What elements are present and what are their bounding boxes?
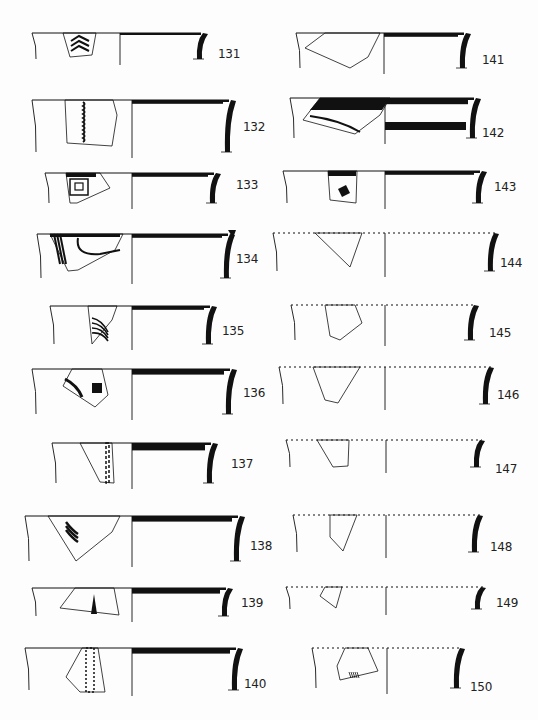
catalogue-number: 142 (482, 126, 504, 140)
catalogue-number: 145 (489, 326, 511, 340)
sherd-148 (293, 515, 483, 558)
fragment-outline (317, 440, 349, 467)
fragment-outline (325, 305, 362, 340)
catalogue-number: 144 (500, 256, 522, 270)
pottery-drawing-plate: 1311321331341351361371381391401411421431… (0, 0, 538, 720)
catalogue-number: 131 (218, 47, 240, 61)
sherd-135 (50, 306, 217, 350)
catalogue-number: 132 (243, 120, 265, 134)
fragment-outline (337, 648, 378, 680)
sherd-146 (279, 367, 494, 410)
sherd-142 (290, 98, 481, 144)
fragment-outline (320, 587, 342, 608)
catalogue-number: 134 (236, 252, 258, 266)
catalogue-number: 150 (470, 680, 492, 694)
fragment-outline (330, 515, 357, 551)
catalogue-number: 149 (496, 596, 518, 610)
catalogue-number: 140 (244, 677, 266, 691)
sherd-149 (286, 587, 486, 615)
fragment-outline (315, 233, 362, 267)
sherd-144 (273, 233, 499, 277)
catalogue-number: 133 (236, 178, 258, 192)
catalogue-number: 136 (243, 386, 265, 400)
fragment-outline (48, 516, 120, 561)
sherd-143 (283, 171, 487, 209)
sherd-147 (286, 440, 485, 473)
catalogue-number: 146 (497, 388, 519, 402)
catalogue-number: 138 (250, 539, 272, 553)
sherd-134 (37, 230, 236, 284)
catalogue-number: 135 (222, 324, 244, 338)
sherd-139 (32, 588, 233, 622)
catalogue-number: 139 (241, 596, 263, 610)
sherd-137 (52, 443, 218, 489)
sherd-136 (32, 369, 237, 420)
fragment-outline (305, 33, 380, 68)
sherd-145 (291, 305, 479, 346)
sherd-131 (32, 33, 208, 65)
sherd-150 (312, 648, 465, 694)
catalogue-number: 137 (231, 457, 253, 471)
sherd-133 (45, 173, 221, 209)
fragment-outline (65, 100, 117, 146)
sherd-138 (25, 516, 245, 567)
sherd-132 (32, 100, 236, 158)
catalogue-number: 143 (494, 180, 516, 194)
catalogue-number: 147 (495, 462, 517, 476)
catalogue-number: 141 (482, 53, 504, 67)
sherd-140 (25, 648, 243, 696)
sherd-141 (296, 33, 471, 74)
fragment-outline (60, 588, 119, 615)
sherd-drawings (0, 0, 538, 720)
catalogue-number: 148 (490, 540, 512, 554)
fragment-outline (313, 367, 360, 403)
